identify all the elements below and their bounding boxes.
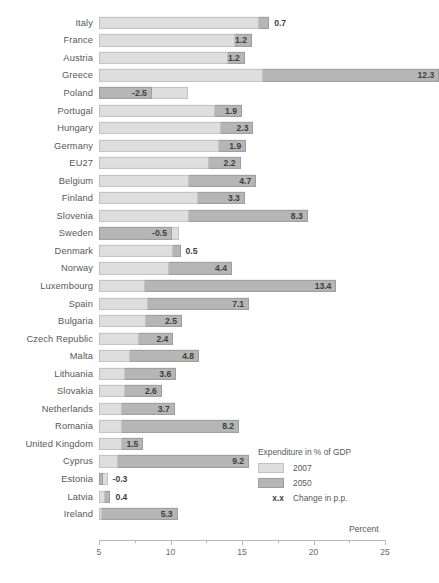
value-label: 8.3 bbox=[99, 211, 303, 221]
chart-row: Malta4.8 bbox=[0, 347, 413, 365]
legend-change-symbol: x.x bbox=[258, 493, 284, 503]
x-axis-title: Percent bbox=[349, 524, 379, 534]
category-label-norway: Norway bbox=[0, 260, 93, 278]
value-label: 3.3 bbox=[99, 193, 240, 203]
category-label-lithuania: Lithuania bbox=[0, 365, 93, 383]
value-label: -0.3 bbox=[113, 474, 128, 484]
x-tick-label: 20 bbox=[309, 547, 319, 557]
category-label-slovakia: Slovakia bbox=[0, 382, 93, 400]
value-label: -0.5 bbox=[99, 228, 167, 238]
category-label-germany: Germany bbox=[0, 137, 93, 155]
value-label: 4.7 bbox=[99, 176, 251, 186]
segment-2007 bbox=[152, 87, 188, 99]
value-label: 1.2 bbox=[99, 35, 247, 45]
bar bbox=[99, 473, 108, 485]
bar-area: 3.6 bbox=[99, 365, 413, 383]
x-tick-minor bbox=[135, 540, 136, 543]
category-label-ireland: Ireland bbox=[0, 505, 93, 523]
chart-row: Spain7.1 bbox=[0, 295, 413, 313]
category-label-poland: Poland bbox=[0, 84, 93, 102]
bar-area: 1.9 bbox=[99, 137, 413, 155]
category-label-romania: Romania bbox=[0, 418, 93, 436]
bar-area: 3.3 bbox=[99, 189, 413, 207]
bar-area: 2.6 bbox=[99, 382, 413, 400]
category-label-hungary: Hungary bbox=[0, 119, 93, 137]
chart-row: Luxembourg13.4 bbox=[0, 277, 413, 295]
value-label: 3.7 bbox=[99, 404, 170, 414]
bar-area: 0.5 bbox=[99, 242, 413, 260]
segment-2007 bbox=[172, 227, 179, 239]
x-tick-minor bbox=[278, 540, 279, 543]
x-tick bbox=[242, 540, 243, 545]
bar-area: 4.8 bbox=[99, 347, 413, 365]
category-label-portugal: Portugal bbox=[0, 102, 93, 120]
chart-legend: Expenditure in % of GDP 2007 2050 x.x Ch… bbox=[258, 447, 408, 507]
bar-area: 1.2 bbox=[99, 49, 413, 67]
value-label: 2.5 bbox=[99, 316, 177, 326]
value-label: 13.4 bbox=[99, 281, 331, 291]
category-label-belgium: Belgium bbox=[0, 172, 93, 190]
chart-row: Belgium4.7 bbox=[0, 172, 413, 190]
category-label-malta: Malta bbox=[0, 347, 93, 365]
chart-row: Germany1.9 bbox=[0, 137, 413, 155]
bar-area: 2.3 bbox=[99, 119, 413, 137]
bar-area: 12.3 bbox=[99, 67, 413, 85]
value-label: 9.2 bbox=[99, 456, 244, 466]
bar-area: 4.7 bbox=[99, 172, 413, 190]
chart-row: Greece12.3 bbox=[0, 67, 413, 85]
value-label: 5.3 bbox=[99, 509, 173, 519]
legend-label-2050: 2050 bbox=[293, 478, 312, 488]
legend-title: Expenditure in % of GDP bbox=[258, 447, 408, 457]
value-label: 0.4 bbox=[115, 492, 127, 502]
x-tick-minor bbox=[206, 540, 207, 543]
category-label-greece: Greece bbox=[0, 67, 93, 85]
bar-area: 13.4 bbox=[99, 277, 413, 295]
bar-area: 2.5 bbox=[99, 312, 413, 330]
segment-2007 bbox=[99, 245, 173, 257]
value-label: 2.3 bbox=[99, 123, 248, 133]
segment-2050 bbox=[259, 17, 269, 29]
category-label-spain: Spain bbox=[0, 295, 93, 313]
x-tick-label: 10 bbox=[166, 547, 176, 557]
chart-row: Denmark0.5 bbox=[0, 242, 413, 260]
x-tick-label: 5 bbox=[97, 547, 102, 557]
bar-area: 5.3 bbox=[99, 505, 413, 523]
chart-row: Sweden-0.5 bbox=[0, 225, 413, 243]
bar-area: 3.7 bbox=[99, 400, 413, 418]
category-label-bulgaria: Bulgaria bbox=[0, 312, 93, 330]
value-label: 2.4 bbox=[99, 334, 168, 344]
segment-2050 bbox=[173, 245, 180, 257]
chart-row: Romania8.2 bbox=[0, 418, 413, 436]
bar-area: 7.1 bbox=[99, 295, 413, 313]
category-label-united-kingdom: United Kingdom bbox=[0, 435, 93, 453]
chart-row: Hungary2.3 bbox=[0, 119, 413, 137]
chart-row: Lithuania3.6 bbox=[0, 365, 413, 383]
chart-row: Finland3.3 bbox=[0, 189, 413, 207]
value-label: 4.4 bbox=[99, 263, 227, 273]
category-label-france: France bbox=[0, 32, 93, 50]
value-label: 4.8 bbox=[99, 351, 194, 361]
x-tick-label: 15 bbox=[237, 547, 247, 557]
value-label: 7.1 bbox=[99, 299, 244, 309]
x-tick bbox=[99, 540, 100, 545]
category-label-finland: Finland bbox=[0, 189, 93, 207]
bar-area: 8.2 bbox=[99, 418, 413, 436]
legend-swatch-2050 bbox=[258, 478, 284, 488]
x-tick bbox=[314, 540, 315, 545]
category-label-italy: Italy bbox=[0, 14, 93, 32]
chart-row: France1.2 bbox=[0, 32, 413, 50]
bar-area: -0.5 bbox=[99, 225, 413, 243]
chart-row: Slovakia2.6 bbox=[0, 382, 413, 400]
bar bbox=[99, 17, 269, 29]
category-label-cyprus: Cyprus bbox=[0, 453, 93, 471]
bar-area: 1.2 bbox=[99, 32, 413, 50]
category-label-austria: Austria bbox=[0, 49, 93, 67]
value-label: 1.9 bbox=[99, 106, 237, 116]
bar-area: 0.7 bbox=[99, 14, 413, 32]
category-label-luxembourg: Luxembourg bbox=[0, 277, 93, 295]
chart-row: Poland-2.5 bbox=[0, 84, 413, 102]
x-tick bbox=[171, 540, 172, 545]
value-label: 1.5 bbox=[99, 439, 138, 449]
chart-row: Italy0.7 bbox=[0, 14, 413, 32]
